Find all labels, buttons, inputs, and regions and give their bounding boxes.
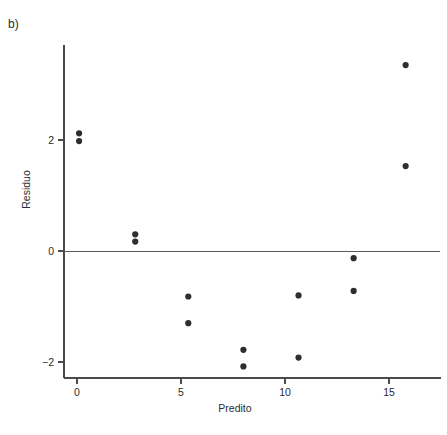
- x-axis-tick-label: 15: [383, 386, 395, 398]
- data-point: [132, 238, 138, 244]
- data-point: [240, 347, 246, 353]
- y-axis-tick-label: −2: [42, 356, 54, 368]
- y-axis-title: Residuo: [20, 170, 32, 209]
- data-point: [351, 288, 357, 294]
- data-point: [185, 320, 191, 326]
- x-axis-tick-label: 0: [74, 386, 80, 398]
- data-point: [295, 354, 301, 360]
- data-point: [185, 293, 191, 299]
- data-point: [403, 62, 409, 68]
- data-point: [240, 363, 246, 369]
- y-axis-tick-label: 2: [48, 134, 54, 146]
- data-point: [295, 292, 301, 298]
- data-point: [403, 163, 409, 169]
- data-point: [132, 231, 138, 237]
- data-point: [351, 255, 357, 261]
- x-axis-title: Predito: [218, 402, 251, 414]
- data-point: [76, 138, 82, 144]
- x-axis-tick-label: 5: [178, 386, 184, 398]
- residual-scatter-chart: −202051015PreditoResiduo: [0, 0, 447, 435]
- scatter-plot-figure: b) −202051015PreditoResiduo: [0, 0, 447, 435]
- x-axis-tick-label: 10: [279, 386, 291, 398]
- data-point: [76, 130, 82, 136]
- y-axis-tick-label: 0: [48, 245, 54, 257]
